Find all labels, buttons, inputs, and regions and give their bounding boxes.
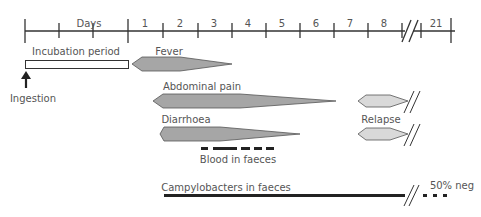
campylobacters-label: Campylobacters in faeces <box>161 182 291 193</box>
ingestion-arrow-icon <box>21 71 31 88</box>
campylobacter-timeline-diagram: Days 1 2 3 4 5 6 7 8 21 Incubation perio… <box>0 0 481 217</box>
fifty-percent-neg-label: 50% neg <box>430 180 474 191</box>
day-3-label: 3 <box>211 18 217 29</box>
fever-bar <box>132 57 232 71</box>
day-21-label: 21 <box>430 18 443 29</box>
relapse-label: Relapse <box>361 114 400 125</box>
campylobacters-bar <box>164 194 405 197</box>
day-1-label: 1 <box>142 18 148 29</box>
campylobacters-break <box>404 185 419 206</box>
days-label: Days <box>77 18 102 29</box>
blood-in-faeces-label: Blood in faeces <box>200 154 276 165</box>
abdominal-pain-label: Abdominal pain <box>163 81 241 92</box>
day-8-label: 8 <box>381 18 387 29</box>
diarrhoea-label: Diarrhoea <box>161 114 210 125</box>
abdominal-pain-bar <box>153 94 336 108</box>
day-5-label: 5 <box>279 18 285 29</box>
incubation-bar <box>26 61 129 69</box>
day-4-label: 4 <box>245 18 251 29</box>
ingestion-label: Ingestion <box>10 93 56 104</box>
fever-label: Fever <box>155 46 183 57</box>
blood-in-faeces-bar <box>201 147 274 150</box>
day-7-label: 7 <box>347 18 353 29</box>
relapse-diarrhoea-bar <box>358 124 420 146</box>
relapse-abdominal-bar <box>358 91 420 113</box>
campylobacters-tail-dashes <box>423 194 447 197</box>
day-2-label: 2 <box>177 18 183 29</box>
diarrhoea-bar <box>160 127 300 141</box>
incubation-label: Incubation period <box>32 46 120 57</box>
day-6-label: 6 <box>313 18 319 29</box>
